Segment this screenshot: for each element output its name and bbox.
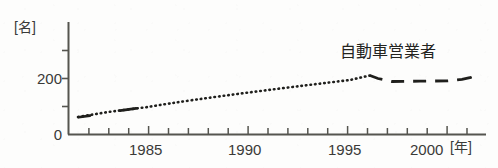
chart-figure: [名] 200 0 1985 1990 1995 2000 [年] 自動車営業者 (0, 0, 498, 168)
x-tick-label-1990: 1990 (228, 142, 261, 157)
y-tick-label-200: 200 (24, 71, 62, 86)
y-tick-label-0: 0 (44, 127, 62, 142)
series-ink-blot-1981 (79, 116, 91, 118)
y-axis-unit-label: [名] (14, 20, 36, 34)
x-tick-label-2000: 2000 (410, 142, 443, 157)
series-annotation-label: 自動車営業者 (340, 44, 436, 60)
x-axis-ticks (89, 126, 467, 134)
x-axis-unit-label: [年] (450, 140, 472, 154)
series-end-marker (469, 76, 472, 79)
x-tick-label-1995: 1995 (328, 142, 361, 157)
x-tick-label-1985: 1985 (129, 142, 162, 157)
series-line-dashed-segment (370, 76, 470, 82)
series-ink-blot-1983 (120, 108, 136, 110)
